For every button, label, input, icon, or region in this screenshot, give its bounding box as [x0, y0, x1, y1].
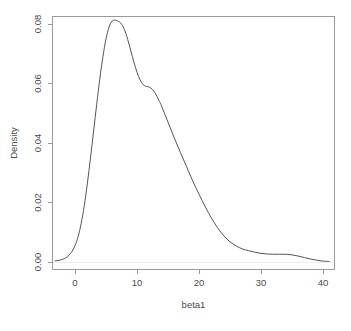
x-tick-label: 40 [318, 277, 329, 288]
plot-canvas: 0.000.020.040.060.08 010203040 beta1 Den… [0, 0, 351, 331]
y-axis-title: Density [8, 127, 19, 159]
y-tick-label: 0.06 [32, 74, 43, 93]
density-plot-figure: 0.000.020.040.060.08 010203040 beta1 Den… [0, 0, 351, 331]
y-tick-label: 0.00 [32, 253, 43, 272]
x-tick-label: 10 [132, 277, 143, 288]
x-tick-label: 20 [194, 277, 205, 288]
y-tick-label: 0.02 [32, 193, 43, 212]
plot-box-frame [53, 17, 335, 270]
y-axis-ticks: 0.000.020.040.060.08 [32, 15, 53, 272]
x-axis-ticks: 010203040 [72, 270, 328, 288]
y-tick-label: 0.08 [32, 15, 43, 34]
x-tick-label: 30 [256, 277, 267, 288]
y-tick-label: 0.04 [32, 134, 43, 153]
x-axis-title: beta1 [182, 299, 206, 310]
x-tick-label: 0 [72, 277, 77, 288]
density-curve [55, 20, 329, 261]
